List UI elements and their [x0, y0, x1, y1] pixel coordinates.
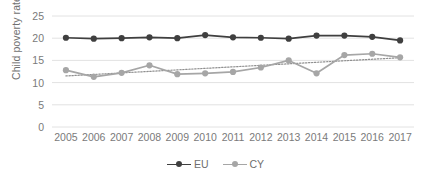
y-axis-tick-5: 5	[18, 100, 44, 110]
y-axis-tick-25: 25	[18, 11, 44, 21]
data-point-eu-2013[interactable]	[286, 36, 292, 42]
data-point-cy-2006[interactable]	[91, 74, 97, 80]
data-point-cy-2007[interactable]	[119, 70, 125, 76]
y-axis-tick-0: 0	[18, 122, 44, 132]
data-point-eu-2017[interactable]	[397, 37, 403, 43]
data-point-eu-2010[interactable]	[202, 32, 208, 38]
data-point-eu-2006[interactable]	[91, 36, 97, 42]
data-point-eu-2015[interactable]	[341, 32, 347, 38]
child-poverty-rate-line-chart: Child poverty rate 2520151050 2005200620…	[0, 0, 431, 181]
data-point-cy-2010[interactable]	[202, 70, 208, 76]
data-point-cy-2009[interactable]	[174, 71, 180, 77]
data-point-eu-2014[interactable]	[313, 32, 319, 38]
legend-line-marker-icon	[223, 160, 247, 169]
data-point-eu-2008[interactable]	[146, 34, 152, 40]
data-point-eu-2016[interactable]	[369, 34, 375, 40]
data-point-cy-2016[interactable]	[369, 51, 375, 57]
data-point-eu-2009[interactable]	[174, 35, 180, 41]
y-axis-tick-15: 15	[18, 55, 44, 65]
legend-label-cy: CY	[250, 158, 265, 170]
legend-item-cy[interactable]: CY	[223, 158, 265, 170]
data-point-cy-2017[interactable]	[397, 54, 403, 60]
chart-legend: EU CY	[0, 158, 431, 170]
series-cy	[63, 51, 403, 80]
x-axis-tick-2017: 2017	[383, 132, 417, 143]
data-point-eu-2007[interactable]	[119, 35, 125, 41]
data-point-cy-2014[interactable]	[313, 70, 319, 76]
data-point-cy-2015[interactable]	[341, 52, 347, 58]
legend-item-eu[interactable]: EU	[167, 158, 209, 170]
data-point-cy-2005[interactable]	[63, 67, 69, 73]
data-point-cy-2013[interactable]	[286, 57, 292, 63]
legend-label-eu: EU	[194, 158, 209, 170]
data-point-cy-2012[interactable]	[258, 64, 264, 70]
legend-line-marker-icon	[167, 160, 191, 169]
data-point-cy-2008[interactable]	[146, 62, 152, 68]
data-point-eu-2012[interactable]	[258, 35, 264, 41]
y-axis-tick-20: 20	[18, 33, 44, 43]
data-point-eu-2005[interactable]	[63, 35, 69, 41]
y-axis-tick-10: 10	[18, 78, 44, 88]
data-point-eu-2011[interactable]	[230, 34, 236, 40]
plot-area	[0, 0, 431, 181]
data-point-cy-2011[interactable]	[230, 69, 236, 75]
